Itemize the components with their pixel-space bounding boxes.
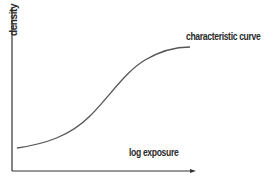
- curve-label: characteristic curve: [186, 31, 260, 42]
- x-axis-arrowhead: [190, 169, 196, 173]
- characteristic-curve: [17, 47, 190, 148]
- x-axis-label: log exposure: [129, 147, 178, 158]
- y-axis-label: density: [8, 4, 19, 36]
